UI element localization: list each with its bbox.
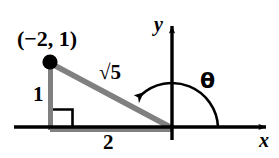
- filled-dot-icon: [42, 54, 57, 69]
- y-axis-label: y: [154, 14, 163, 34]
- diagram-canvas: [0, 0, 279, 158]
- trigonometry-diagram: (−2, 1) 1 2 √5 θ x y: [0, 0, 279, 158]
- right-angle-marker-icon: [53, 110, 73, 128]
- x-axis-label: x: [259, 130, 269, 150]
- hypotenuse-length-label: √5: [99, 62, 121, 83]
- horizontal-leg-length-label: 2: [103, 132, 114, 153]
- point-coordinate-label: (−2, 1): [17, 28, 77, 50]
- vertical-leg-length-label: 1: [33, 84, 44, 105]
- angle-theta-label: θ: [200, 70, 215, 92]
